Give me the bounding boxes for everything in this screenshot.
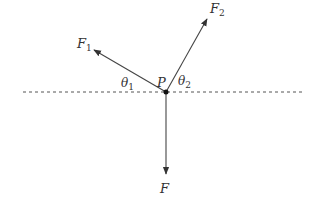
label-f1: F1 [76,36,92,53]
label-point-p: P [156,75,166,90]
label-theta2: θ2 [178,74,191,90]
label-f2: F2 [209,1,225,18]
label-theta1: θ1 [121,76,134,92]
point-p-dot [164,90,169,95]
label-f: F [159,181,170,196]
force-diagram: F1 F2 F P θ1 θ2 [0,0,319,204]
